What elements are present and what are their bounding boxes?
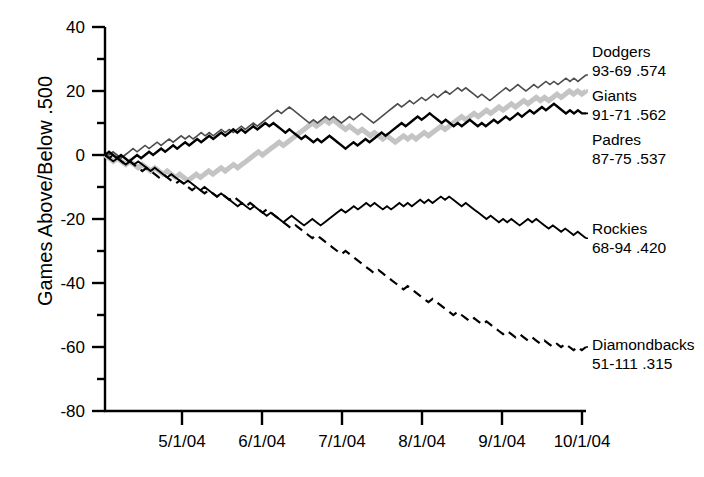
series-layer bbox=[105, 75, 588, 350]
series-line-padres bbox=[105, 91, 586, 181]
y-tick-label: 20 bbox=[66, 82, 85, 101]
x-tick-label: 6/1/04 bbox=[238, 432, 285, 451]
baseball-standings-chart: 40200-20-40-60-805/1/046/1/047/1/048/1/0… bbox=[0, 0, 704, 477]
y-tick-label: 0 bbox=[76, 146, 85, 165]
chart-svg: 40200-20-40-60-805/1/046/1/047/1/048/1/0… bbox=[0, 0, 704, 477]
x-tick-label: 8/1/04 bbox=[398, 432, 445, 451]
tick-label-layer: 40200-20-40-60-805/1/046/1/047/1/048/1/0… bbox=[60, 18, 610, 451]
y-tick-label: -60 bbox=[60, 338, 85, 357]
series-line-rockies bbox=[105, 155, 586, 238]
y-tick-label: -20 bbox=[60, 210, 85, 229]
x-tick-label: 10/1/04 bbox=[554, 432, 611, 451]
x-tick-label: 9/1/04 bbox=[478, 432, 525, 451]
y-tick-label: 40 bbox=[66, 18, 85, 37]
y-tick-label: -40 bbox=[60, 274, 85, 293]
x-tick-label: 5/1/04 bbox=[158, 432, 205, 451]
y-tick-label: -80 bbox=[60, 402, 85, 421]
series-line-diamondbacks bbox=[105, 155, 586, 350]
series-line-giants bbox=[105, 104, 586, 162]
axis-spine bbox=[105, 27, 586, 411]
axis-layer bbox=[92, 27, 586, 425]
x-tick-label: 7/1/04 bbox=[318, 432, 365, 451]
